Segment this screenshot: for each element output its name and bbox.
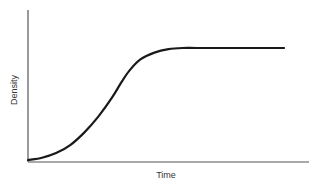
- x-axis-label: Time: [156, 170, 176, 180]
- y-axis-label: Density: [9, 74, 19, 105]
- growth-curve: [28, 48, 284, 160]
- chart-area: Time Density: [0, 0, 322, 184]
